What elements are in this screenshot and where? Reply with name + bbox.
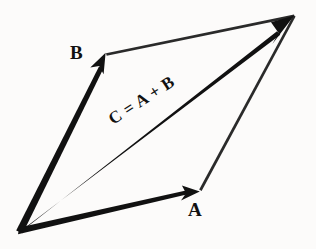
vector-diagram-canvas <box>0 0 316 249</box>
vector-diagram-figure: B A C = A + B <box>0 0 316 249</box>
vector-b-label: B <box>70 43 83 62</box>
vector-a-label: A <box>188 200 202 219</box>
